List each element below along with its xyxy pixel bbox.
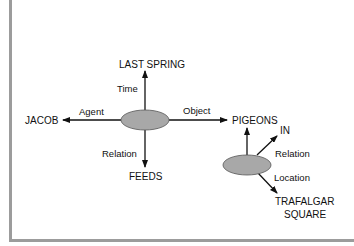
- label-object: Object: [183, 105, 211, 116]
- edge-relation-in: [257, 136, 277, 155]
- node-pigeons: PIGEONS: [232, 115, 278, 126]
- label-location: Location: [274, 172, 310, 183]
- semantic-network-diagram: LAST SPRING JACOB PIGEONS FEEDS IN TRAFA…: [0, 0, 354, 246]
- node-square: SQUARE: [284, 209, 327, 220]
- proposition-node-2: [223, 155, 271, 175]
- label-relation-feeds: Relation: [102, 148, 137, 159]
- node-trafalgar: TRAFALGAR: [275, 196, 334, 207]
- node-jacob: JACOB: [25, 115, 59, 126]
- node-last-spring: LAST SPRING: [119, 59, 185, 70]
- figure-frame: LAST SPRING JACOB PIGEONS FEEDS IN TRAFA…: [0, 0, 354, 246]
- node-feeds: FEEDS: [129, 171, 163, 182]
- proposition-node-1: [121, 110, 169, 130]
- node-in: IN: [280, 125, 290, 136]
- label-time: Time: [117, 83, 138, 94]
- label-relation-in: Relation: [275, 148, 310, 159]
- label-agent: Agent: [79, 106, 104, 117]
